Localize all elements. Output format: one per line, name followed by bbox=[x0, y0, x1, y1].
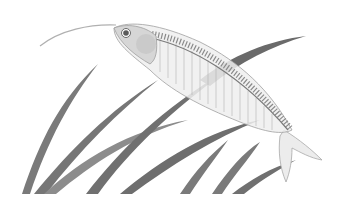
fish-illustration bbox=[0, 0, 341, 216]
fish-gill bbox=[136, 34, 156, 54]
glass-fish bbox=[114, 24, 322, 182]
leaf bbox=[44, 120, 188, 194]
fish-tail bbox=[279, 130, 322, 182]
fish-pupil bbox=[123, 30, 129, 36]
fish-barbel bbox=[40, 25, 116, 46]
